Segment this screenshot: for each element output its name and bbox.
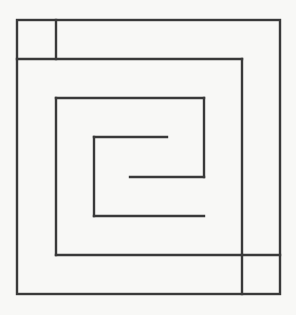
spiral-maze-drawing <box>0 0 296 315</box>
maze-diagram <box>0 0 296 315</box>
